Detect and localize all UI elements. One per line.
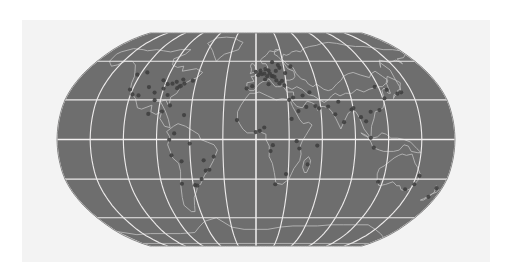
map-marker[interactable] [385, 88, 389, 92]
map-marker[interactable] [254, 130, 258, 134]
map-marker[interactable] [351, 106, 355, 110]
map-marker[interactable] [290, 117, 294, 121]
map-marker[interactable] [166, 93, 170, 97]
map-marker[interactable] [161, 78, 165, 82]
map-marker[interactable] [426, 195, 430, 199]
map-marker[interactable] [161, 86, 165, 90]
map-marker[interactable] [280, 79, 284, 83]
map-marker[interactable] [204, 169, 208, 173]
map-marker[interactable] [258, 129, 262, 133]
map-marker[interactable] [147, 85, 151, 89]
map-marker[interactable] [317, 106, 321, 110]
map-marker[interactable] [283, 71, 287, 75]
map-marker[interactable] [267, 82, 271, 86]
world-map[interactable] [0, 0, 512, 280]
map-marker[interactable] [297, 146, 301, 150]
map-marker[interactable] [277, 66, 281, 70]
map-marker[interactable] [172, 131, 176, 135]
map-marker[interactable] [435, 186, 439, 190]
map-marker[interactable] [291, 95, 295, 99]
map-marker[interactable] [373, 85, 377, 89]
figure-root [0, 0, 512, 280]
map-marker[interactable] [282, 83, 286, 87]
map-marker[interactable] [153, 91, 157, 95]
map-marker[interactable] [179, 84, 183, 88]
map-marker[interactable] [145, 70, 149, 74]
map-marker[interactable] [200, 177, 204, 181]
map-marker[interactable] [160, 109, 164, 113]
map-marker[interactable] [179, 159, 183, 163]
map-marker[interactable] [146, 112, 150, 116]
map-marker[interactable] [175, 80, 179, 84]
map-marker[interactable] [417, 174, 421, 178]
map-marker[interactable] [262, 125, 266, 129]
map-marker[interactable] [304, 105, 308, 109]
map-marker[interactable] [181, 77, 185, 81]
map-marker[interactable] [342, 120, 346, 124]
map-marker[interactable] [395, 92, 399, 96]
map-marker[interactable] [377, 108, 381, 112]
map-marker[interactable] [166, 82, 170, 86]
map-marker[interactable] [182, 81, 186, 85]
map-marker[interactable] [135, 73, 139, 77]
map-marker[interactable] [182, 113, 186, 117]
map-marker[interactable] [412, 182, 416, 186]
map-marker[interactable] [195, 183, 199, 187]
map-marker[interactable] [188, 141, 192, 145]
map-marker[interactable] [168, 103, 172, 107]
map-marker[interactable] [300, 93, 304, 97]
map-marker[interactable] [153, 98, 157, 102]
map-marker[interactable] [307, 90, 311, 94]
map-marker[interactable] [170, 82, 174, 86]
map-marker[interactable] [369, 136, 373, 140]
world-map-svg[interactable] [0, 0, 512, 280]
map-marker[interactable] [295, 139, 299, 143]
map-marker[interactable] [169, 153, 173, 157]
map-marker[interactable] [369, 110, 373, 114]
map-marker[interactable] [364, 119, 368, 123]
map-marker[interactable] [250, 84, 254, 88]
map-marker[interactable] [333, 112, 337, 116]
map-marker[interactable] [136, 93, 140, 97]
map-marker[interactable] [315, 143, 319, 147]
map-marker[interactable] [270, 60, 274, 64]
map-marker[interactable] [359, 115, 363, 119]
map-marker[interactable] [191, 79, 195, 83]
map-marker[interactable] [399, 90, 403, 94]
map-marker[interactable] [313, 104, 317, 108]
map-marker[interactable] [207, 168, 211, 172]
map-marker[interactable] [288, 64, 292, 68]
map-marker[interactable] [167, 138, 171, 142]
map-marker[interactable] [271, 143, 275, 147]
map-marker[interactable] [336, 100, 340, 104]
map-marker[interactable] [287, 98, 291, 102]
map-marker[interactable] [180, 182, 184, 186]
map-marker[interactable] [245, 86, 249, 90]
map-marker[interactable] [273, 182, 277, 186]
map-marker[interactable] [296, 109, 300, 113]
map-marker[interactable] [274, 69, 278, 73]
map-marker[interactable] [382, 96, 386, 100]
map-marker[interactable] [128, 87, 132, 91]
map-marker[interactable] [284, 172, 288, 176]
map-marker[interactable] [268, 149, 272, 153]
map-marker[interactable] [235, 118, 239, 122]
map-marker[interactable] [306, 162, 310, 166]
map-marker[interactable] [212, 154, 216, 158]
map-marker[interactable] [372, 146, 376, 150]
map-marker[interactable] [403, 187, 407, 191]
map-marker[interactable] [376, 180, 380, 184]
map-marker[interactable] [202, 158, 206, 162]
map-marker[interactable] [130, 92, 134, 96]
map-marker[interactable] [326, 105, 330, 109]
